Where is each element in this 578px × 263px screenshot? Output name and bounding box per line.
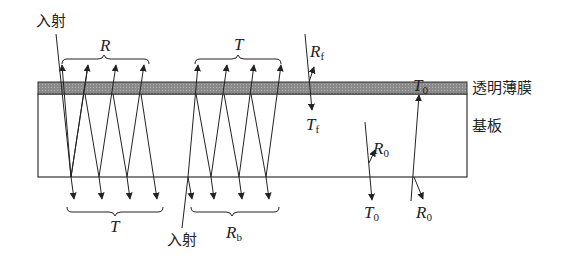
label-R-top: R [99,36,111,55]
brace-top-left [62,55,149,64]
brace-bottom-left [67,207,163,216]
label-T-bottom: T [110,217,121,236]
brace-top-right [195,55,281,64]
substrate [38,94,467,177]
label-R0-bottom: R0 [415,203,432,223]
substrate-label: 基板 [472,117,502,135]
label-Rf: Rf [309,42,324,62]
incident-ray-bottom [182,177,188,228]
brace-bottom-right [191,207,279,216]
incident-label-top: 入射 [36,12,66,30]
incident-label-bottom: 入射 [167,231,197,249]
label-T0-bottom: T0 [364,203,379,223]
thin-film-layer [38,82,467,94]
thin-film-diagram: 透明薄膜 基板 [0,0,578,263]
film-label: 透明薄膜 [472,79,532,97]
label-T0-top: T0 [413,76,428,96]
label-Rb: Rb [225,223,242,243]
label-T-top: T [234,35,245,54]
